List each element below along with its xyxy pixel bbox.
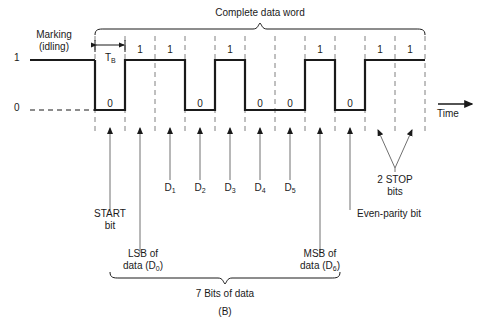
data-bit-label-d1: D1 xyxy=(164,182,175,195)
time-axis-label: Time xyxy=(437,108,459,120)
bit-level-text-6: 0 xyxy=(287,98,293,110)
bit-level-text-10: 1 xyxy=(407,44,413,56)
bit-level-text-3: 0 xyxy=(197,98,203,110)
serial-data-word-diagram: Marking (idling) 1 0 Complete data word … xyxy=(0,0,479,325)
seven-bits-brace xyxy=(110,272,340,284)
bit-period-dimension xyxy=(95,40,125,52)
data-bit-label-d2: D2 xyxy=(194,182,205,195)
marking-idling-label: Marking (idling) xyxy=(36,29,72,52)
level-high-tick-label: 1 xyxy=(14,52,20,64)
bit-level-text-4: 1 xyxy=(227,44,233,56)
seven-bits-of-data-label: 7 Bits of data xyxy=(196,288,254,300)
bit-level-text-1: 1 xyxy=(137,44,143,56)
even-parity-bit-label: Even-parity bit xyxy=(357,208,421,220)
bit-level-text-0: 0 xyxy=(107,98,113,110)
bit-level-text-2: 1 xyxy=(167,44,173,56)
stop-bits-label: 2 STOP bits xyxy=(377,174,412,197)
stop-bits-callout-arrows xyxy=(378,130,412,172)
marking-label-line2: (idling) xyxy=(39,41,69,52)
lsb-label: LSB of data (D0) xyxy=(123,248,163,273)
complete-data-word-label: Complete data word xyxy=(215,7,305,19)
start-bit-label: START bit xyxy=(94,208,126,231)
bit-period-label: TB xyxy=(105,52,116,65)
msb-label: MSB of data (D6) xyxy=(300,248,340,273)
marking-label-line1: Marking xyxy=(36,29,72,40)
bit-level-text-9: 1 xyxy=(377,44,383,56)
data-bit-label-d3: D3 xyxy=(224,182,235,195)
bit-level-text-5: 0 xyxy=(257,98,263,110)
bit-level-text-7: 1 xyxy=(317,44,323,56)
complete-data-word-brace xyxy=(95,23,425,35)
data-bit-label-d5: D5 xyxy=(284,182,295,195)
bit-level-text-8: 0 xyxy=(347,98,353,110)
data-bit-label-d4: D4 xyxy=(254,182,265,195)
level-low-tick-label: 0 xyxy=(14,102,20,114)
bit-gridlines xyxy=(95,36,425,132)
figure-caption: (B) xyxy=(218,306,231,318)
